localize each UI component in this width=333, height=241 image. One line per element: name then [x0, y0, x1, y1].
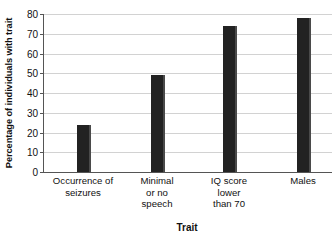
bar	[223, 26, 237, 172]
y-axis-title-text: Percentage of individuals with trait	[4, 18, 14, 168]
x-category-label-line: IQ score	[211, 175, 247, 187]
x-category-label: Males	[290, 175, 316, 187]
y-tick-label: 10	[27, 147, 38, 158]
x-category-label-line: lower	[211, 187, 247, 199]
x-axis-title: Trait	[43, 222, 331, 233]
y-tick-label: 50	[27, 68, 38, 79]
x-axis-category-labels: Occurrence ofseizuresMinimalor nospeechI…	[43, 175, 331, 223]
x-category-label-line: Occurrence of	[53, 175, 113, 187]
x-category-label-line: speech	[140, 198, 173, 210]
y-tick-label: 70	[27, 28, 38, 39]
y-tick-label: 60	[27, 48, 38, 59]
x-category-label-line: than 70	[211, 198, 247, 210]
y-axis-title: Percentage of individuals with trait	[0, 0, 18, 186]
y-tick-mark	[40, 172, 44, 173]
bar-chart-figure: Percentage of individuals with trait 010…	[0, 0, 333, 241]
bar-series	[44, 14, 332, 172]
y-tick-label: 30	[27, 107, 38, 118]
y-tick-label: 40	[27, 88, 38, 99]
plot-area	[43, 14, 332, 173]
x-category-label-line: seizures	[53, 187, 113, 199]
y-axis-tick-labels: 01020304050607080	[17, 14, 41, 172]
y-tick-label: 0	[32, 167, 38, 178]
x-category-label: IQ scorelowerthan 70	[211, 175, 247, 210]
x-category-label-line: Males	[290, 175, 316, 187]
x-category-label: Minimalor nospeech	[140, 175, 173, 210]
bar	[77, 125, 91, 172]
bar	[151, 75, 165, 172]
x-category-label-line: or no	[140, 187, 173, 199]
y-tick-label: 20	[27, 127, 38, 138]
bar	[297, 18, 311, 172]
x-category-label: Occurrence ofseizures	[53, 175, 113, 198]
y-tick-label: 80	[27, 9, 38, 20]
x-category-label-line: Minimal	[140, 175, 173, 187]
